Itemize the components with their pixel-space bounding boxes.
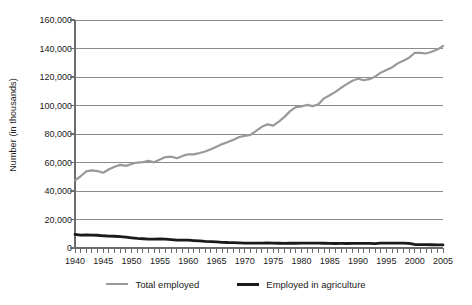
- chart-legend: Total employedEmployed in agriculture: [0, 274, 472, 294]
- x-axis-tick-label: 1985: [320, 257, 340, 266]
- legend-label: Employed in agriculture: [266, 279, 365, 290]
- x-axis-tick-label: 1975: [263, 257, 283, 266]
- legend-label: Total employed: [135, 279, 199, 290]
- x-axis-tick-label: 2000: [405, 257, 425, 266]
- x-axis-tick-labels: 1940194519501955196019651970197519801985…: [0, 252, 472, 268]
- x-axis-tick-label: 1990: [348, 257, 368, 266]
- x-axis-tick-label: 2005: [433, 257, 453, 266]
- gridlines: [75, 20, 443, 248]
- data-series: [75, 46, 443, 245]
- legend-line-swatch: [237, 283, 259, 286]
- x-axis-tick-label: 1995: [376, 257, 396, 266]
- x-axis-tick-label: 1970: [235, 257, 255, 266]
- legend-item[interactable]: Total employed: [106, 279, 199, 290]
- employment-line-chart: Number (in thousands) 020,00040,00060,00…: [0, 0, 472, 305]
- x-axis-tick-label: 1965: [207, 257, 227, 266]
- x-axis-tick-label: 1950: [122, 257, 142, 266]
- x-axis-tick-label: 1945: [93, 257, 113, 266]
- x-axis-tick-label: 1940: [65, 257, 85, 266]
- legend-line-swatch: [106, 283, 128, 285]
- legend-item[interactable]: Employed in agriculture: [237, 279, 365, 290]
- x-axis-tick-label: 1955: [150, 257, 170, 266]
- x-axis-tick-label: 1960: [178, 257, 198, 266]
- x-axis-tick-label: 1980: [291, 257, 311, 266]
